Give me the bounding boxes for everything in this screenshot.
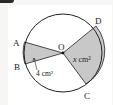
sector-aob-area-label: 4 cm² [36,69,54,78]
unit-cm2: cm² [77,55,92,64]
label-c: C [84,91,90,101]
label-a: A [13,38,20,48]
circle-sector-diagram: A B C D O 4 cm² x cm² [0,0,113,105]
sector-doc-area-label: x cm² [72,55,91,64]
label-b: B [14,62,20,72]
label-o: O [58,42,65,52]
center-point [62,52,65,55]
label-d: D [95,16,102,26]
